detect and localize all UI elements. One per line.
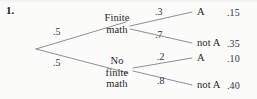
probability-label-no-finite-math-a: .2 [157,52,165,62]
probability-label-no-finite-math-not-a: .8 [157,76,165,86]
leaf-outcome-a-1: A [197,7,205,18]
problem-number: 1. [6,5,14,16]
node-no-finite-math-line-1: No [99,55,135,67]
probability-label-branch-no-finite-math: .5 [53,58,61,68]
node-no-finite-math: No finite math [99,55,135,90]
leaf-outcome-not-a-1: not A [197,38,221,49]
leaf-outcome-a-2: A [197,53,205,64]
probability-label-branch-finite-math: .5 [53,27,61,37]
leaf-value-not-a-1: .35 [227,39,240,49]
node-no-finite-math-line-2: finite [99,67,135,79]
probability-label-finite-math-not-a: .7 [155,30,163,40]
node-finite-math: Finite math [99,12,135,35]
node-no-finite-math-line-3: math [99,78,135,90]
node-finite-math-line-1: Finite [99,12,135,24]
leaf-value-a-2: .10 [227,54,240,64]
leaf-value-not-a-2: .40 [227,81,240,91]
probability-label-finite-math-a: .3 [155,7,163,17]
probability-tree-diagram: 1. .5 .5 Finite math No finite math .3 .… [0,0,257,99]
leaf-value-a-1: .15 [227,8,240,18]
leaf-outcome-not-a-2: not A [197,80,221,91]
node-finite-math-line-2: math [99,24,135,36]
